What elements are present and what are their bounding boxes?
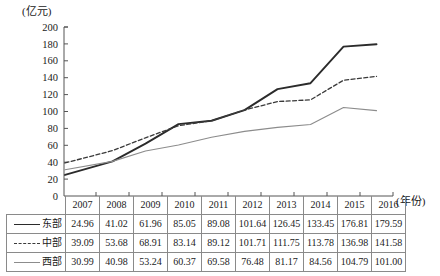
cell-west-2013: 81.17 — [270, 253, 304, 272]
cell-central-2010: 83.14 — [168, 234, 202, 253]
cell-central-2014: 113.78 — [304, 234, 338, 253]
row-tail-east — [406, 215, 408, 234]
svg-text:60: 60 — [48, 140, 59, 151]
cell-central-2007: 39.09 — [66, 234, 100, 253]
table-corner-cell — [7, 196, 66, 215]
table-row: 东部 24.96 41.02 61.96 85.05 89.08 101.64 … — [7, 215, 408, 234]
year-header-2010: 2010 — [168, 196, 202, 215]
cell-west-2007: 30.99 — [66, 253, 100, 272]
table-row: 中部 39.09 53.68 68.91 83.14 89.12 101.71 … — [7, 234, 408, 253]
svg-text:160: 160 — [42, 55, 58, 66]
cell-west-2008: 40.98 — [100, 253, 134, 272]
cell-east-2008: 41.02 — [100, 215, 134, 234]
svg-text:20: 20 — [48, 174, 59, 185]
cell-east-2016: 179.59 — [372, 215, 406, 234]
cell-west-2016: 101.00 — [372, 253, 406, 272]
cell-east-2009: 61.96 — [134, 215, 168, 234]
chart-page: (亿元) 020406080100120140160180200 (年份) 20… — [0, 0, 440, 276]
svg-text:100: 100 — [42, 106, 58, 117]
svg-text:80: 80 — [48, 123, 59, 134]
data-table: 2007 2008 2009 2010 2011 2012 2013 2014 … — [6, 196, 408, 272]
legend-label-west: 西部 — [42, 253, 62, 271]
legend-line-west-icon — [14, 262, 40, 263]
cell-central-2012: 101.71 — [236, 234, 270, 253]
cell-west-2012: 76.48 — [236, 253, 270, 272]
cell-central-2013: 111.75 — [270, 234, 304, 253]
series-line-东部 — [65, 44, 377, 175]
cell-west-2010: 60.37 — [168, 253, 202, 272]
svg-text:40: 40 — [48, 157, 59, 168]
cell-east-2007: 24.96 — [66, 215, 100, 234]
year-header-2016: 2016 — [372, 196, 406, 215]
year-header-2013: 2013 — [270, 196, 304, 215]
cell-central-2011: 89.12 — [202, 234, 236, 253]
svg-text:140: 140 — [42, 72, 58, 83]
row-tail-west — [406, 253, 408, 272]
svg-text:180: 180 — [42, 39, 58, 50]
table-row: 西部 30.99 40.98 53.24 60.37 69.58 76.48 8… — [7, 253, 408, 272]
legend-cell-east: 东部 — [7, 215, 66, 234]
series-line-中部 — [65, 76, 377, 163]
cell-central-2015: 136.98 — [338, 234, 372, 253]
cell-west-2014: 84.56 — [304, 253, 338, 272]
year-header-2014: 2014 — [304, 196, 338, 215]
line-chart: 020406080100120140160180200 — [0, 0, 440, 200]
year-header-2011: 2011 — [202, 196, 236, 215]
cell-west-2011: 69.58 — [202, 253, 236, 272]
year-header-2015: 2015 — [338, 196, 372, 215]
cell-central-2016: 141.58 — [372, 234, 406, 253]
cell-east-2014: 133.45 — [304, 215, 338, 234]
legend-label-east: 东部 — [42, 215, 62, 233]
table-tail-cell — [406, 196, 408, 215]
cell-west-2015: 104.79 — [338, 253, 372, 272]
legend-line-east-icon — [14, 224, 40, 225]
cell-east-2011: 89.08 — [202, 215, 236, 234]
cell-west-2009: 53.24 — [134, 253, 168, 272]
chart-plot-svg: 020406080100120140160180200 — [0, 0, 440, 200]
svg-text:200: 200 — [42, 22, 58, 33]
legend-cell-central: 中部 — [7, 234, 66, 253]
cell-east-2013: 126.45 — [270, 215, 304, 234]
svg-text:120: 120 — [42, 89, 58, 100]
year-header-2009: 2009 — [134, 196, 168, 215]
legend-cell-west: 西部 — [7, 253, 66, 272]
legend-line-central-icon — [14, 243, 40, 244]
year-header-2007: 2007 — [66, 196, 100, 215]
cell-central-2009: 68.91 — [134, 234, 168, 253]
cell-east-2015: 176.81 — [338, 215, 372, 234]
table-header-row: 2007 2008 2009 2010 2011 2012 2013 2014 … — [7, 196, 408, 215]
year-header-2008: 2008 — [100, 196, 134, 215]
year-header-2012: 2012 — [236, 196, 270, 215]
cell-central-2008: 53.68 — [100, 234, 134, 253]
cell-east-2010: 85.05 — [168, 215, 202, 234]
row-tail-central — [406, 234, 408, 253]
legend-label-central: 中部 — [42, 234, 62, 252]
cell-east-2012: 101.64 — [236, 215, 270, 234]
